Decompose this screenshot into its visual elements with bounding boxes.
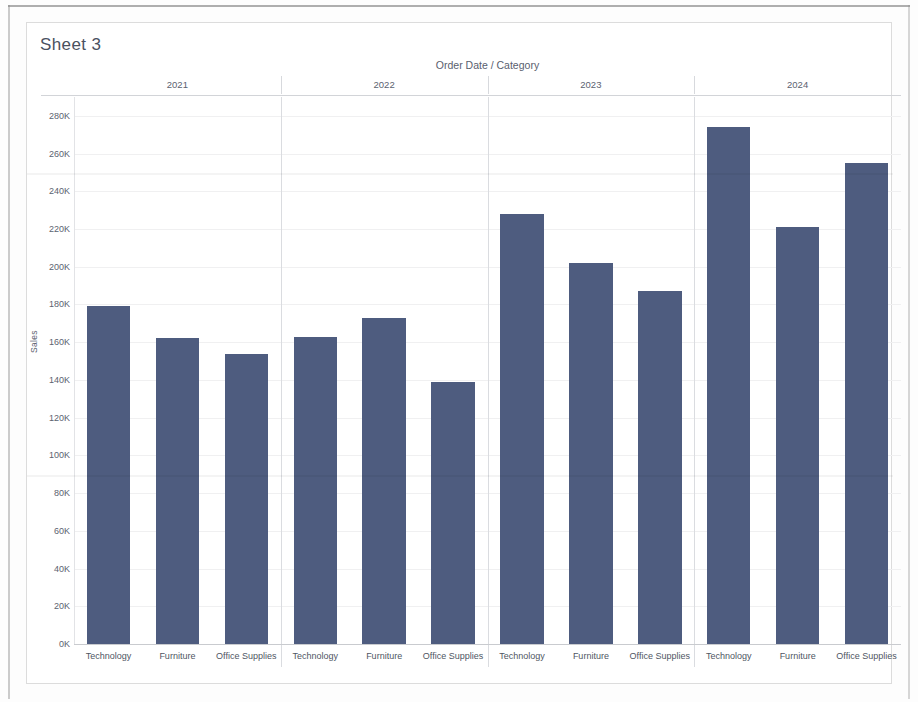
bar[interactable] bbox=[707, 127, 750, 644]
category-pane-2022: TechnologyFurnitureOffice Supplies bbox=[281, 645, 488, 667]
bar-slot bbox=[143, 97, 212, 644]
y-axis-tick-label: 40K bbox=[27, 564, 74, 574]
page-edge-right bbox=[908, 5, 910, 699]
y-axis-tick-label: 200K bbox=[27, 262, 74, 272]
year-header-rule bbox=[41, 95, 901, 96]
y-axis-tick-label: 260K bbox=[27, 149, 74, 159]
year-header-label: 2022 bbox=[374, 79, 395, 90]
bar-slot bbox=[419, 97, 488, 644]
bar[interactable] bbox=[87, 306, 130, 644]
scanned-page: Sheet 3 Order Date / Category 2021202220… bbox=[0, 0, 918, 702]
y-axis-tick-label: 140K bbox=[27, 375, 74, 385]
pane-separator bbox=[281, 97, 282, 644]
bar-group-2023 bbox=[488, 97, 695, 644]
bar-slot bbox=[832, 97, 901, 644]
page-edge-left bbox=[8, 5, 10, 699]
pane-separator bbox=[488, 97, 489, 644]
bar-slot bbox=[281, 97, 350, 644]
bar[interactable] bbox=[500, 214, 543, 644]
category-axis-label[interactable]: Furniture bbox=[143, 645, 212, 667]
bar-slot bbox=[556, 97, 625, 644]
category-axis-label[interactable]: Furniture bbox=[763, 645, 832, 667]
y-axis-tick-label: 240K bbox=[27, 186, 74, 196]
bar-slot bbox=[694, 97, 763, 644]
category-axis-label[interactable]: Office Supplies bbox=[419, 645, 488, 667]
category-axis-label[interactable]: Technology bbox=[281, 645, 350, 667]
sheet-title: Sheet 3 bbox=[40, 35, 101, 55]
pane-separator bbox=[694, 97, 695, 644]
category-axis-label[interactable]: Office Supplies bbox=[625, 645, 694, 667]
y-axis-tick-label: 280K bbox=[27, 111, 74, 121]
page-edge-top bbox=[8, 5, 910, 7]
bar-slot bbox=[350, 97, 419, 644]
category-pane-2023: TechnologyFurnitureOffice Supplies bbox=[488, 645, 695, 667]
year-header-2024[interactable]: 2024 bbox=[694, 75, 901, 95]
category-axis-label[interactable]: Technology bbox=[694, 645, 763, 667]
category-pane-2024: TechnologyFurnitureOffice Supplies bbox=[694, 645, 901, 667]
category-pane-2021: TechnologyFurnitureOffice Supplies bbox=[74, 645, 281, 667]
year-header-2023[interactable]: 2023 bbox=[488, 75, 695, 95]
category-axis-label[interactable]: Office Supplies bbox=[212, 645, 281, 667]
y-axis-tick-label: 20K bbox=[27, 601, 74, 611]
worksheet-card: Sheet 3 Order Date / Category 2021202220… bbox=[26, 22, 892, 684]
year-header-label: 2023 bbox=[580, 79, 601, 90]
year-header-2021[interactable]: 2021 bbox=[74, 75, 281, 95]
bar-slot bbox=[212, 97, 281, 644]
category-axis-band: TechnologyFurnitureOffice SuppliesTechno… bbox=[74, 645, 901, 667]
category-axis-label[interactable]: Office Supplies bbox=[832, 645, 901, 667]
category-axis-label[interactable]: Furniture bbox=[556, 645, 625, 667]
year-header-band: 2021202220232024 bbox=[74, 75, 901, 95]
bar[interactable] bbox=[362, 318, 405, 644]
column-shelf-title: Order Date / Category bbox=[74, 59, 901, 71]
bar-slot bbox=[74, 97, 143, 644]
y-axis-tick-label: 160K bbox=[27, 337, 74, 347]
y-axis-tick-label: 120K bbox=[27, 413, 74, 423]
y-axis-tick-label: 80K bbox=[27, 488, 74, 498]
y-axis-tick-label: 60K bbox=[27, 526, 74, 536]
bar[interactable] bbox=[569, 263, 612, 644]
bar[interactable] bbox=[776, 227, 819, 644]
category-axis-label[interactable]: Furniture bbox=[350, 645, 419, 667]
bar-group-2024 bbox=[694, 97, 901, 644]
category-axis-label[interactable]: Technology bbox=[74, 645, 143, 667]
bar[interactable] bbox=[294, 337, 337, 644]
bar-group-2022 bbox=[281, 97, 488, 644]
year-header-label: 2021 bbox=[167, 79, 188, 90]
bar-slot bbox=[488, 97, 557, 644]
y-axis-tick-label: 180K bbox=[27, 299, 74, 309]
y-axis-tick-label: 0K bbox=[27, 639, 74, 649]
year-header-2022[interactable]: 2022 bbox=[281, 75, 488, 95]
bar[interactable] bbox=[431, 382, 474, 644]
bar[interactable] bbox=[845, 163, 888, 644]
bar-group-2021 bbox=[74, 97, 281, 644]
bar[interactable] bbox=[638, 291, 681, 644]
year-header-label: 2024 bbox=[787, 79, 808, 90]
bar[interactable] bbox=[156, 338, 199, 644]
y-axis-tick-label: 100K bbox=[27, 450, 74, 460]
bar-slot bbox=[763, 97, 832, 644]
bar[interactable] bbox=[225, 354, 268, 644]
y-axis-tick-label: 220K bbox=[27, 224, 74, 234]
category-axis-label[interactable]: Technology bbox=[488, 645, 557, 667]
bar-slot bbox=[625, 97, 694, 644]
